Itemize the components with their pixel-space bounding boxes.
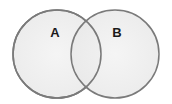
label-b: B <box>112 25 121 40</box>
label-a: A <box>50 25 60 40</box>
set-b <box>71 10 159 98</box>
circle-b <box>71 10 159 98</box>
venn-diagram: A B <box>0 0 172 104</box>
